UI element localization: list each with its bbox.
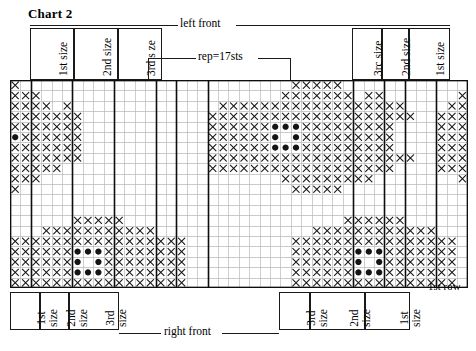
size-label-line2: size	[410, 309, 422, 327]
size-label-line2: size	[117, 309, 129, 327]
right-front-line-right	[222, 333, 279, 334]
rep-bracket-line-left	[148, 58, 196, 59]
size-label-line1: 2nd	[349, 309, 361, 327]
left-front-label: left front	[180, 17, 221, 29]
page-title: Chart 2	[28, 6, 72, 22]
left-front-line-right	[236, 25, 450, 26]
right-front-line-left	[119, 333, 161, 334]
rep-label: rep=17sts	[198, 50, 243, 62]
chart-canvas[interactable]	[10, 80, 468, 288]
knitting-chart-grid[interactable]	[10, 80, 468, 288]
size-label-bottom-2: 3rdsize	[105, 309, 128, 327]
size-label-top-0: 1st size	[58, 42, 70, 76]
size-label-bottom-5: 1stsize	[399, 309, 422, 327]
size-label-top-1: 2nd size	[102, 38, 114, 76]
first-row-label: 1st row	[428, 280, 461, 292]
left-front-line-left	[30, 25, 178, 26]
rep-bracket-tick-left	[148, 58, 149, 80]
size-label-top-5: 1st size	[435, 42, 447, 76]
rep-bracket-tick-right	[290, 58, 291, 80]
rep-bracket-line-right	[258, 58, 290, 59]
size-label-line1: 1st	[399, 309, 411, 327]
size-label-line1: 3rd	[105, 309, 117, 327]
chart-page: Chart 2 1st size2nd size3rd s ze3rc size…	[0, 0, 476, 351]
right-front-label: right front	[164, 325, 211, 337]
